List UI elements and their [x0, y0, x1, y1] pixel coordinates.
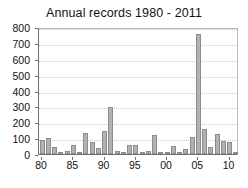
bar: [158, 152, 163, 154]
x-axis: 80859095000510: [38, 157, 238, 175]
bar: [127, 145, 132, 154]
bar: [83, 133, 88, 154]
x-tick-label: 05: [192, 160, 204, 171]
chart-title: Annual records 1980 - 2011: [0, 6, 248, 20]
bar: [215, 134, 220, 154]
bar: [183, 149, 188, 154]
x-tick-mark: [72, 157, 73, 160]
bar: [58, 152, 63, 154]
x-tick-mark: [166, 157, 167, 160]
bar: [52, 147, 57, 154]
bar: [140, 152, 145, 154]
bar: [202, 129, 207, 154]
y-tick-label: 200: [12, 118, 30, 129]
bar: [90, 142, 95, 154]
plot-area: [38, 28, 238, 155]
y-tick-label: 0: [24, 150, 30, 161]
bar: [71, 145, 76, 154]
y-tick-label: 700: [12, 39, 30, 50]
y-tick-label: 400: [12, 86, 30, 97]
bar: [190, 137, 195, 154]
bar: [121, 152, 126, 154]
bar: [77, 152, 82, 154]
bar: [133, 145, 138, 154]
x-tick-label: 90: [98, 160, 110, 171]
bar: [108, 107, 113, 154]
y-tick-label: 300: [12, 102, 30, 113]
bar: [221, 141, 226, 154]
x-tick-label: 85: [67, 160, 79, 171]
bar-series: [39, 29, 237, 154]
bar: [227, 142, 232, 154]
bar: [165, 152, 170, 154]
y-tick-label: 600: [12, 55, 30, 66]
x-tick-mark: [229, 157, 230, 160]
x-tick-label: 10: [223, 160, 235, 171]
y-tick-label: 100: [12, 134, 30, 145]
chart-figure: Annual records 1980 - 2011 0100200300400…: [0, 0, 248, 188]
bar: [208, 147, 213, 154]
x-tick-label: 00: [160, 160, 172, 171]
bar: [102, 131, 107, 154]
x-tick-mark: [197, 157, 198, 160]
bar: [40, 140, 45, 154]
bar: [96, 148, 101, 154]
bar: [177, 152, 182, 154]
bar: [146, 151, 151, 154]
bar: [115, 151, 120, 154]
y-tick-label: 800: [12, 23, 30, 34]
bar: [171, 146, 176, 154]
x-tick-mark: [135, 157, 136, 160]
x-tick-label: 80: [35, 160, 47, 171]
y-axis: 0100200300400500600700800: [0, 28, 34, 155]
bar: [152, 135, 157, 154]
bar: [233, 152, 238, 154]
y-tick-mark: [35, 155, 38, 156]
bar: [65, 151, 70, 154]
bar: [46, 138, 51, 154]
x-tick-mark: [41, 157, 42, 160]
x-tick-label: 95: [129, 160, 141, 171]
x-tick-mark: [104, 157, 105, 160]
bar: [196, 34, 201, 154]
y-tick-label: 500: [12, 70, 30, 81]
